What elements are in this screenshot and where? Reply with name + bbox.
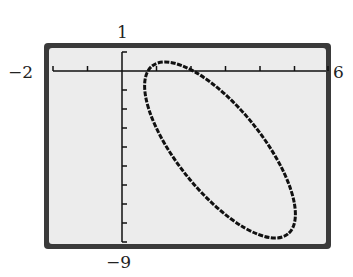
screen-area (49, 48, 326, 244)
calculator-screen (0, 0, 353, 277)
